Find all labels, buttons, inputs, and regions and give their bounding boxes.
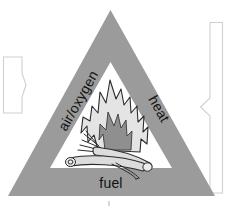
fire-triangle-graphic: air/oxygen heat fuel [0, 0, 228, 209]
log-end-ring [68, 160, 73, 164]
right-callout-bracket [201, 23, 223, 194]
fire-triangle-diagram: air/oxygen heat fuel [0, 0, 228, 209]
log-end [143, 163, 152, 171]
artifact-speck [108, 201, 110, 206]
left-callout-bracket [4, 57, 27, 113]
left-callout-shape [4, 57, 27, 113]
right-callout-shape [201, 23, 223, 194]
label-fuel: fuel [99, 175, 122, 191]
